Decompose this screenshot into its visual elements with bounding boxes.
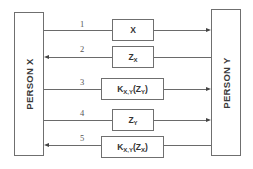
message-1-text: X bbox=[130, 25, 136, 35]
person-y-label: PERSON Y bbox=[221, 57, 232, 108]
message-5-box: KX,Y(ZX) bbox=[101, 136, 164, 158]
message-2-box: ZX bbox=[112, 46, 154, 68]
person-y-box: PERSON Y bbox=[211, 9, 241, 156]
message-3-box: KX,Y(ZY) bbox=[101, 78, 164, 100]
person-x-box: PERSON X bbox=[14, 12, 44, 156]
message-4-text: ZY bbox=[128, 115, 137, 126]
arrow-right-icon bbox=[206, 87, 211, 91]
message-1-box: X bbox=[112, 19, 154, 41]
step-number-4: 4 bbox=[80, 108, 84, 118]
arrow-left-icon bbox=[44, 143, 49, 147]
step-number-2: 2 bbox=[80, 44, 84, 54]
arrow-left-icon bbox=[44, 55, 49, 59]
step-number-5: 5 bbox=[80, 133, 84, 143]
person-x-label: PERSON X bbox=[24, 58, 35, 110]
step-number-3: 3 bbox=[80, 77, 84, 87]
arrow-right-icon bbox=[206, 28, 211, 32]
message-2-text: ZX bbox=[128, 52, 137, 63]
message-4-box: ZY bbox=[112, 109, 154, 131]
message-5-text: KX,Y(ZX) bbox=[117, 142, 148, 153]
arrow-right-icon bbox=[206, 118, 211, 122]
step-number-1: 1 bbox=[80, 19, 84, 29]
message-3-text: KX,Y(ZY) bbox=[117, 84, 148, 95]
